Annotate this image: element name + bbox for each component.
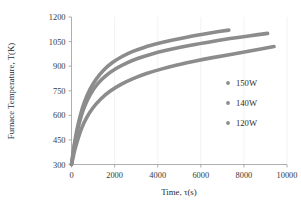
y-tick-label: 1200 [49,13,66,22]
x-tick-label: 4000 [149,171,166,180]
y-tick-label: 300 [53,161,66,170]
legend-label-140w: 140W [236,98,258,108]
legend-marker-150w [226,81,230,85]
legend-marker-140w [226,101,230,105]
chart-figure: 30045060075090010501200 0200040006000800… [0,0,301,212]
legend-marker-120w [226,121,230,125]
y-tick-label: 450 [53,136,66,145]
legend-label-120w: 120W [236,118,258,128]
x-tick-label: 8000 [236,171,253,180]
y-tick-label: 1050 [49,38,66,47]
x-tick-label: 10000 [277,171,298,180]
y-axis-title: Furnace Temperature, T(K) [6,43,16,140]
chart-canvas: 30045060075090010501200 0200040006000800… [0,0,301,212]
y-tick-label: 750 [53,87,66,96]
y-tick-label: 900 [53,62,66,71]
x-axis-title: Time, τ(s) [161,187,197,197]
y-tick-label: 600 [53,111,66,120]
x-tick-label: 2000 [106,171,123,180]
x-tick-label: 6000 [192,171,209,180]
x-tick-label: 0 [69,171,73,180]
legend-label-150w: 150W [236,78,258,88]
